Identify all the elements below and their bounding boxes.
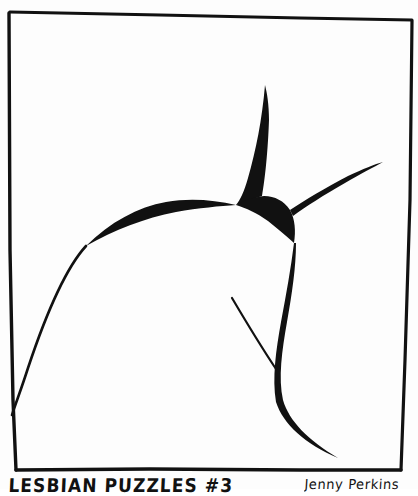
border-bottom-edge xyxy=(16,469,401,470)
